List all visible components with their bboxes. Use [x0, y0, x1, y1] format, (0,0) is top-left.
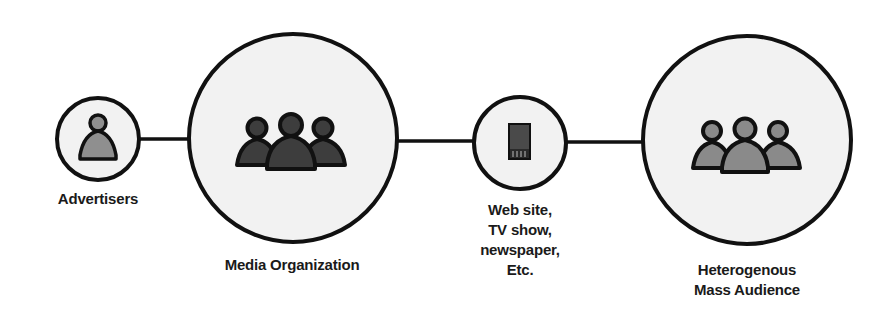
label-media-channel: Web site, TV show, newspaper, Etc. [460, 200, 580, 280]
group-people-icon [237, 114, 345, 169]
label-line: Web site, [460, 200, 580, 220]
label-line: Advertisers [38, 189, 158, 208]
label-line: Mass Audience [657, 280, 837, 300]
mobile-device-icon [509, 124, 530, 159]
label-mass-audience: Heterogenous Mass Audience [657, 260, 837, 300]
node-media-organization [189, 34, 397, 242]
label-media-organization: Media Organization [192, 255, 392, 274]
node-mass-audience [643, 36, 851, 244]
node-advertisers [57, 98, 139, 180]
label-line: Heterogenous [657, 260, 837, 280]
group-people-icon [693, 119, 800, 173]
label-line: newspaper, [460, 240, 580, 260]
label-line: Etc. [460, 260, 580, 280]
label-line: Media Organization [192, 255, 392, 274]
node-media-channel [474, 97, 566, 189]
label-advertisers: Advertisers [38, 189, 158, 208]
label-line: TV show, [460, 220, 580, 240]
